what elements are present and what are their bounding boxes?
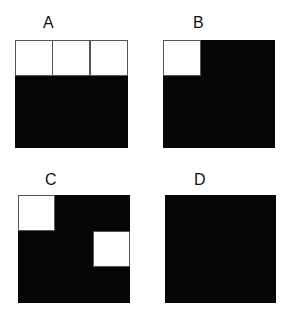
panel-a [15,40,128,148]
panel-a-white-cell-2 [52,40,90,76]
panel-b-white-cell-1 [163,40,201,76]
panel-c-label: C [45,172,57,188]
panel-a-label: A [43,15,54,31]
panel-d [165,195,276,303]
panel-c [18,195,130,303]
panel-d-label: D [194,172,206,188]
panel-b [163,40,275,148]
panel-a-white-cell-1 [15,40,53,76]
panel-c-white-cell-1 [18,195,55,231]
panel-b-label: B [193,15,204,31]
panel-a-white-cell-3 [90,40,128,76]
panel-c-white-cell-2 [93,231,130,267]
